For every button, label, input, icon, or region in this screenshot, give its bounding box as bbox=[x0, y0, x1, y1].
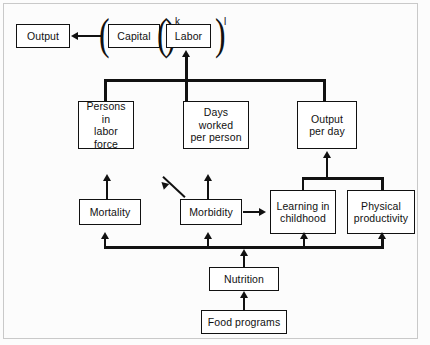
node-days-worked-line1: Days worked bbox=[186, 106, 246, 131]
edge-labor-bus-trunk-arrowhead bbox=[182, 50, 190, 57]
node-capital[interactable]: Capital bbox=[108, 24, 160, 48]
node-learning-in-childhood[interactable]: Learning in childhood bbox=[270, 190, 336, 234]
node-morbidity[interactable]: Morbidity bbox=[180, 199, 242, 225]
edge-morbidity-to-learning-arrowhead bbox=[259, 208, 266, 216]
node-food-programs[interactable]: Food programs bbox=[201, 310, 287, 334]
edge-morbidity-to-days-worked bbox=[207, 181, 209, 199]
edge-food-to-nutrition bbox=[243, 298, 245, 310]
edge-morbidity-to-days-worked-arrowhead bbox=[204, 174, 212, 181]
node-morbidity-label: Morbidity bbox=[189, 206, 233, 219]
node-capital-label: Capital bbox=[117, 30, 150, 43]
node-persons-line1: Persons in bbox=[81, 100, 131, 125]
node-persons-line3: force bbox=[94, 138, 118, 151]
edge-nutrition-to-bus bbox=[243, 256, 245, 267]
edge-nutrition-to-morbidity-arrowhead bbox=[204, 232, 212, 239]
edge-nutrition-to-learning-arrowhead bbox=[300, 232, 308, 239]
node-food-programs-label: Food programs bbox=[208, 316, 281, 329]
bus-labor-inputs bbox=[104, 79, 326, 82]
node-persons-line2: labor bbox=[94, 125, 118, 138]
node-output-per-day-line2: per day bbox=[309, 125, 345, 138]
node-persons-in-labor-force[interactable]: Persons in labor force bbox=[78, 101, 134, 149]
node-nutrition-label: Nutrition bbox=[224, 273, 264, 286]
node-learning-line1: Learning in bbox=[276, 200, 329, 213]
edge-capital-to-output-arrowhead bbox=[71, 32, 78, 40]
node-nutrition[interactable]: Nutrition bbox=[209, 267, 279, 291]
edge-mortality-to-persons bbox=[106, 181, 108, 199]
bus-nutrition-riser-physical bbox=[381, 239, 383, 248]
node-physical-line1: Physical bbox=[361, 200, 401, 213]
node-output-label: Output bbox=[27, 30, 59, 43]
bracket-output-per-day bbox=[302, 177, 384, 180]
edge-nutrition-to-mortality-arrowhead bbox=[101, 232, 109, 239]
bus-labor-inputs-drop-right bbox=[323, 79, 326, 101]
node-mortality-label: Mortality bbox=[90, 206, 131, 219]
bus-nutrition-riser-learning bbox=[303, 239, 305, 248]
labor-exponent: l bbox=[224, 17, 226, 27]
bus-nutrition-riser-morbidity bbox=[207, 239, 209, 248]
bus-labor-inputs-drop-mid bbox=[185, 79, 188, 101]
node-days-worked-per-person[interactable]: Days worked per person bbox=[183, 101, 249, 149]
edge-nutrition-to-bus-arrowhead bbox=[240, 249, 248, 256]
edge-bracket-to-output-per-day bbox=[326, 158, 328, 178]
edge-bracket-to-output-per-day-arrowhead bbox=[323, 151, 331, 158]
node-mortality[interactable]: Mortality bbox=[79, 199, 141, 225]
bus-nutrition-riser-mortality bbox=[104, 239, 106, 248]
node-output-per-day[interactable]: Output per day bbox=[297, 101, 357, 149]
diagram-canvas: Output ( Capital ) k ( Labor ) l Persons… bbox=[0, 0, 430, 345]
edge-food-to-nutrition-arrowhead bbox=[240, 291, 248, 298]
node-output[interactable]: Output bbox=[16, 24, 70, 48]
node-labor[interactable]: Labor bbox=[166, 24, 211, 48]
node-learning-line2: childhood bbox=[280, 212, 326, 225]
edge-nutrition-to-physical-arrowhead bbox=[378, 232, 386, 239]
node-days-worked-line2: per person bbox=[190, 131, 241, 144]
node-labor-label: Labor bbox=[175, 30, 202, 43]
edge-mortality-to-persons-arrowhead bbox=[103, 174, 111, 181]
edge-labor-bus-trunk bbox=[185, 57, 188, 81]
bus-labor-inputs-drop-left bbox=[104, 79, 107, 101]
node-physical-productivity[interactable]: Physical productivity bbox=[347, 190, 415, 234]
node-physical-line2: productivity bbox=[354, 212, 408, 225]
node-output-per-day-line1: Output bbox=[311, 113, 343, 126]
